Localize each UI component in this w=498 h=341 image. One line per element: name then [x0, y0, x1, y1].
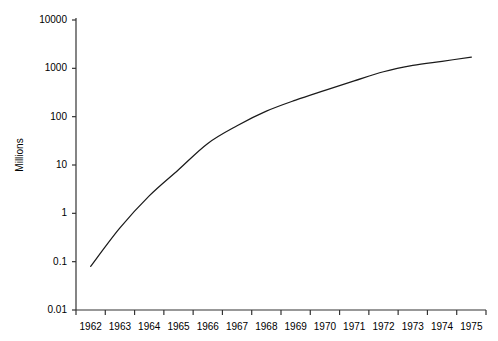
x-axis-tick-label: 1975: [460, 322, 482, 332]
x-axis-tick-label: 1968: [255, 322, 277, 332]
x-axis-tick-label: 1973: [402, 322, 424, 332]
x-axis-tick-label: 1966: [197, 322, 219, 332]
y-axis-tick-label: 10000: [0, 15, 67, 25]
y-axis-title: Millions: [15, 135, 25, 175]
y-axis-tick-label: 0.1: [0, 257, 67, 267]
x-axis-tick-label: 1962: [80, 322, 102, 332]
x-axis-ticks: [76, 310, 486, 315]
x-axis-tick-label: 1963: [109, 322, 131, 332]
x-axis-tick-label: 1967: [226, 322, 248, 332]
y-axis-tick-label: 10: [0, 160, 67, 170]
axis-lines: [76, 18, 486, 310]
data-series-line: [91, 57, 472, 266]
y-axis-tick-label: 1000: [0, 63, 67, 73]
y-axis-tick-label: 0.01: [0, 305, 67, 315]
x-axis-tick-label: 1971: [343, 322, 365, 332]
y-axis-tick-label: 1: [0, 208, 67, 218]
plot-area: [0, 0, 498, 341]
x-axis-tick-label: 1969: [285, 322, 307, 332]
x-axis-tick-label: 1970: [314, 322, 336, 332]
y-axis-tick-label: 100: [0, 112, 67, 122]
x-axis-tick-label: 1964: [138, 322, 160, 332]
chart-container: 1000010001001010.10.01 19621963196419651…: [0, 0, 498, 341]
x-axis-tick-label: 1965: [167, 322, 189, 332]
x-axis-tick-label: 1972: [372, 322, 394, 332]
x-axis-tick-label: 1974: [431, 322, 453, 332]
